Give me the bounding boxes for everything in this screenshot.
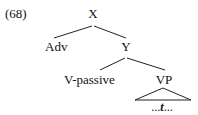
edge-y-vp [127, 58, 165, 70]
example-number: (68) [5, 7, 27, 20]
edge-y-vpassive [100, 58, 125, 70]
edge-x-y [94, 26, 126, 38]
vp-triangle [135, 88, 191, 100]
node-vp: VP [156, 73, 173, 86]
ellipsis-right: ... [164, 100, 173, 114]
node-x: X [88, 7, 97, 20]
tree-edges [0, 0, 198, 115]
node-v-passive: V-passive [64, 73, 115, 86]
edge-x-adv [54, 26, 92, 38]
node-adv: Adv [45, 40, 67, 53]
ellipsis-left: ... [151, 100, 160, 114]
vp-content: ...t... [151, 101, 172, 114]
node-y: Y [121, 40, 130, 53]
